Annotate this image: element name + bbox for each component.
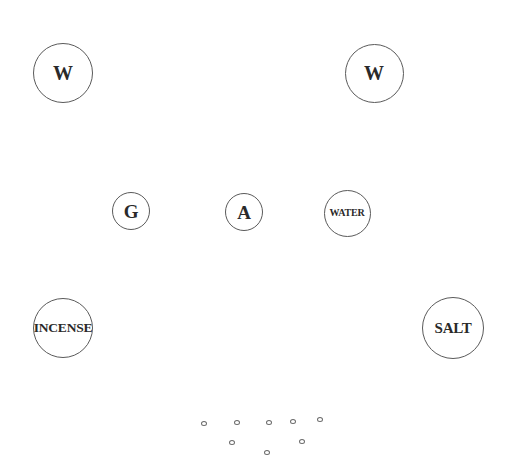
small-circle-marker (234, 420, 240, 425)
small-circle-marker (229, 440, 235, 445)
node-label: G (124, 202, 139, 221)
node-label: SALT (434, 321, 471, 336)
node-label: WATER (330, 208, 365, 218)
small-circle-marker (266, 420, 272, 425)
node-incense: INCENSE (33, 298, 93, 358)
node-label: W (53, 63, 73, 83)
diagram-canvas: W W G A WATER INCENSE SALT (0, 0, 508, 467)
small-circle-marker (317, 417, 323, 422)
node-label: INCENSE (34, 321, 93, 335)
node-water: WATER (324, 190, 371, 237)
small-circle-marker (201, 421, 207, 426)
node-w-left: W (33, 43, 93, 103)
small-circle-marker (299, 439, 305, 444)
small-circle-marker (290, 419, 296, 424)
small-circle-marker (264, 450, 270, 455)
node-a: A (225, 193, 263, 231)
node-label: A (237, 203, 251, 222)
node-g: G (112, 192, 150, 230)
node-label: W (364, 63, 384, 83)
node-salt: SALT (422, 297, 484, 359)
node-w-right: W (345, 44, 404, 103)
